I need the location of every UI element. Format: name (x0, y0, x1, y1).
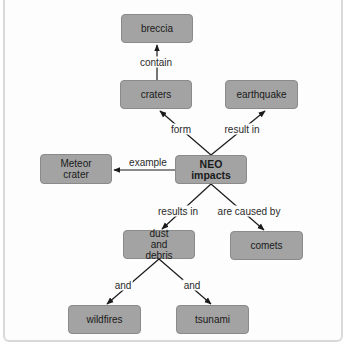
link-label-and-wildfires: and (114, 280, 133, 291)
node-meteor-crater: Meteor crater (40, 154, 112, 184)
link-label-example: example (128, 157, 168, 168)
node-tsunami: tsunami (176, 305, 249, 334)
link-label-and-tsunami: and (183, 280, 202, 291)
node-breccia: breccia (121, 14, 193, 43)
link-label-results-in: results in (157, 206, 199, 217)
node-dust-and-debris: dust and debris (123, 230, 195, 259)
link-label-result-in: result in (223, 124, 260, 135)
link-label-are-caused-by: are caused by (217, 206, 282, 217)
node-craters: craters (120, 80, 192, 109)
node-earthquake: earthquake (225, 80, 298, 109)
node-neo-impacts: NEO impacts (175, 155, 247, 184)
node-wildfires: wildfires (68, 305, 141, 334)
node-comets: comets (230, 231, 303, 260)
link-label-contain: contain (139, 57, 173, 68)
link-label-form: form (170, 124, 192, 135)
